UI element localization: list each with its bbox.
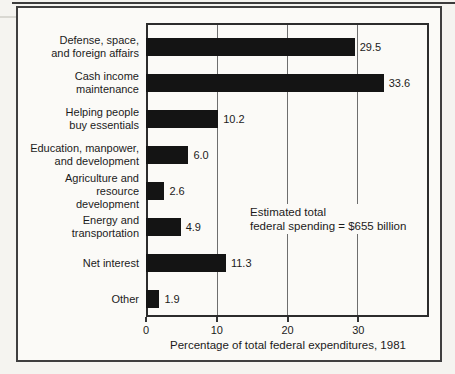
tick-label-20: 20 (281, 324, 293, 336)
scanned-page: Defense, space,and foreign affairs29.5Ca… (0, 0, 455, 374)
bar-zone: 1.9 (146, 281, 429, 317)
bar (146, 146, 188, 164)
bar-row: Net interest11.3 (20, 245, 429, 281)
value-label: 2.6 (169, 185, 184, 197)
bar-row: Education, manpower,and development6.0 (20, 137, 429, 173)
chart-figure-box: Defense, space,and foreign affairs29.5Ca… (16, 6, 442, 362)
tick-mark-0 (145, 317, 147, 322)
bar (146, 38, 355, 56)
bar (146, 182, 164, 200)
page-left-rule-fragment (0, 16, 16, 18)
bar-row: Cash incomemaintenance33.6 (20, 65, 429, 101)
page-top-rule (12, 2, 455, 4)
value-label: 6.0 (193, 149, 208, 161)
bar-zone: 29.5 (146, 29, 429, 65)
tick-mark-10 (216, 317, 218, 322)
bar-zone: 6.0 (146, 137, 429, 173)
tick-label-30: 30 (352, 324, 364, 336)
value-label: 10.2 (223, 113, 244, 125)
value-label: 29.5 (360, 41, 381, 53)
value-label: 1.9 (164, 293, 179, 305)
bar-row: Other1.9 (20, 281, 429, 317)
category-label: Cash incomemaintenance (20, 70, 146, 96)
tick-label-0: 0 (143, 324, 149, 336)
bar (146, 110, 218, 128)
annotation-line-1: Estimated total (250, 206, 326, 218)
annotation-line-2: federal spending = $655 billion (250, 220, 406, 232)
bar-row: Defense, space,and foreign affairs29.5 (20, 29, 429, 65)
category-label: Net interest (20, 257, 146, 270)
category-label: Helping peoplebuy essentials (20, 106, 146, 132)
category-label: Energy andtransportation (20, 214, 146, 240)
value-label: 4.9 (186, 221, 201, 233)
bar-zone: 10.2 (146, 101, 429, 137)
value-label: 11.3 (231, 257, 252, 269)
bar (146, 290, 159, 308)
bar-zone: 33.6 (146, 65, 429, 101)
value-label: 33.6 (389, 77, 410, 89)
x-axis-ticks (146, 317, 429, 323)
bar (146, 254, 226, 272)
tick-mark-20 (287, 317, 289, 322)
x-axis-title: Percentage of total federal expenditures… (170, 339, 406, 351)
category-label: Other (20, 293, 146, 306)
tick-label-10: 10 (211, 324, 223, 336)
category-label: Education, manpower,and development (20, 142, 146, 168)
category-label: Defense, space,and foreign affairs (20, 34, 146, 60)
category-label: Agriculture and resourcedevelopment (20, 172, 146, 211)
tick-mark-30 (357, 317, 359, 322)
x-axis-tick-labels: 0102030 (146, 324, 429, 337)
bar-rows: Defense, space,and foreign affairs29.5Ca… (20, 23, 429, 317)
bar-zone: 11.3 (146, 245, 429, 281)
bar-row: Helping peoplebuy essentials10.2 (20, 101, 429, 137)
total-spending-annotation: Estimated total federal spending = $655 … (250, 204, 409, 234)
bar (146, 74, 384, 92)
bar (146, 218, 181, 236)
